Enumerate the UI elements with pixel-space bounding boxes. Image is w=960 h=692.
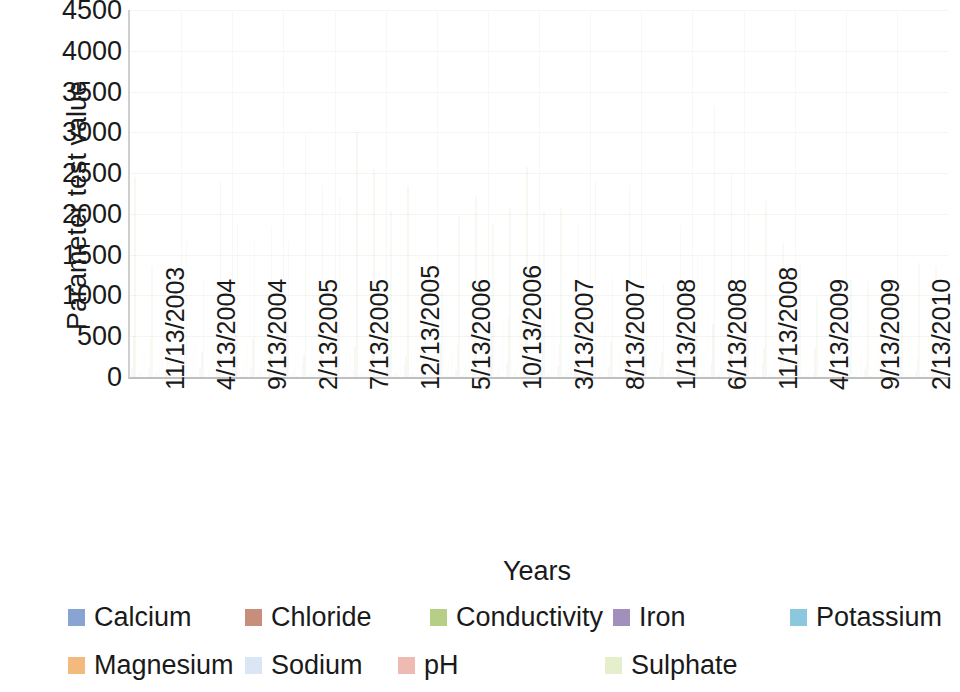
legend-item-ph[interactable]: pH	[398, 646, 459, 684]
legend-label: Potassium	[816, 604, 942, 631]
x-tick-label: 12/13/2005	[418, 265, 443, 390]
bar	[772, 343, 774, 377]
x-tick-label: 1/13/2008	[674, 279, 699, 390]
bar	[414, 349, 416, 377]
legend-item-chloride[interactable]: Chloride	[245, 598, 372, 636]
x-axis-tick-labels: 11/13/20034/13/20049/13/20042/13/20057/1…	[128, 384, 946, 554]
bar	[754, 337, 756, 377]
bar	[345, 349, 347, 377]
legend-item-calcium[interactable]: Calcium	[68, 598, 192, 636]
legend-label: Calcium	[94, 604, 192, 631]
chart-legend: CalciumChlorideConductivityIronPotassium…	[60, 598, 960, 692]
bar	[311, 337, 313, 377]
bar	[158, 347, 160, 377]
x-tick-label: 8/13/2007	[623, 279, 648, 390]
legend-swatch-icon	[398, 657, 415, 674]
legend-swatch-icon	[245, 609, 262, 626]
bar	[203, 279, 205, 377]
bar	[652, 356, 654, 377]
bar	[298, 315, 300, 377]
bar	[604, 329, 606, 377]
bar	[151, 266, 153, 377]
bar	[195, 342, 197, 377]
x-tick-label: 10/13/2006	[520, 265, 545, 390]
legend-item-potassium[interactable]: Potassium	[790, 598, 942, 636]
y-tick-label: 1000	[62, 282, 122, 309]
bar	[669, 363, 671, 377]
bar	[765, 201, 767, 377]
legend-swatch-icon	[245, 657, 262, 674]
legend-item-iron[interactable]: Iron	[613, 598, 686, 636]
bar	[407, 186, 409, 377]
bar	[618, 353, 620, 377]
x-tick-label: 4/13/2004	[214, 279, 239, 390]
x-tick-label: 2/13/2010	[929, 279, 954, 390]
bar	[860, 351, 862, 377]
bar	[601, 348, 603, 377]
y-tick-label: 1500	[62, 242, 122, 269]
legend-swatch-icon	[605, 657, 622, 674]
legend-label: Sulphate	[631, 652, 738, 679]
legend-swatch-icon	[68, 657, 85, 674]
y-tick-label: 3500	[62, 79, 122, 106]
legend-swatch-icon	[430, 609, 447, 626]
bar	[246, 345, 248, 377]
bar	[134, 177, 136, 377]
bar	[400, 332, 402, 377]
bar	[448, 357, 450, 377]
y-tick-label: 3000	[62, 119, 122, 146]
legend-item-conductivity[interactable]: Conductivity	[430, 598, 603, 636]
x-tick-label: 11/13/2008	[776, 267, 801, 390]
legend-swatch-icon	[613, 609, 630, 626]
bar	[499, 339, 501, 377]
legend-item-sulphate[interactable]: Sulphate	[605, 646, 738, 684]
legend-label: Magnesium	[94, 652, 234, 679]
x-tick-label: 2/13/2005	[316, 279, 341, 390]
bar	[714, 106, 716, 377]
water-quality-bar-chart: Parameter test value 4500400035003000250…	[0, 0, 960, 692]
bar	[720, 334, 722, 377]
y-tick-label: 2500	[62, 160, 122, 187]
bar	[254, 238, 256, 377]
legend-item-magnesium[interactable]: Magnesium	[68, 646, 234, 684]
x-tick-label: 9/13/2004	[265, 279, 290, 390]
bar	[451, 352, 453, 377]
bar	[349, 343, 351, 377]
bar	[857, 364, 859, 377]
bar	[553, 310, 555, 377]
bar	[816, 297, 818, 377]
bar	[550, 341, 552, 377]
bar	[707, 312, 709, 377]
bar	[655, 338, 657, 377]
x-tick-label: 7/13/2005	[367, 279, 392, 390]
x-tick-label: 6/13/2008	[725, 279, 750, 390]
bar	[911, 338, 913, 377]
bar	[823, 359, 825, 377]
bar	[567, 349, 569, 377]
x-tick-label: 9/13/2009	[878, 279, 903, 390]
bar	[867, 281, 869, 377]
bar	[703, 352, 705, 377]
legend-label: pH	[424, 652, 459, 679]
bar	[356, 132, 358, 377]
y-tick-label: 2000	[62, 201, 122, 228]
legend-swatch-icon	[790, 609, 807, 626]
bar	[918, 263, 920, 377]
bar	[908, 363, 910, 377]
bar	[806, 363, 808, 377]
legend-row: CalciumChlorideConductivityIronPotassium	[60, 598, 960, 646]
bar	[305, 134, 307, 377]
y-tick-label: 500	[77, 323, 122, 350]
legend-label: Chloride	[271, 604, 372, 631]
bar	[809, 355, 811, 377]
bar	[144, 352, 146, 377]
legend-item-sodium[interactable]: Sodium	[245, 646, 363, 684]
bar	[209, 360, 211, 377]
y-axis-tick-labels: 450040003500300025002000150010005000	[36, 0, 122, 392]
bar	[192, 348, 194, 377]
bar	[397, 357, 399, 377]
y-tick-label: 0	[107, 364, 122, 391]
bar	[509, 207, 511, 377]
bar	[363, 348, 365, 377]
x-tick-label: 4/13/2009	[827, 279, 852, 390]
